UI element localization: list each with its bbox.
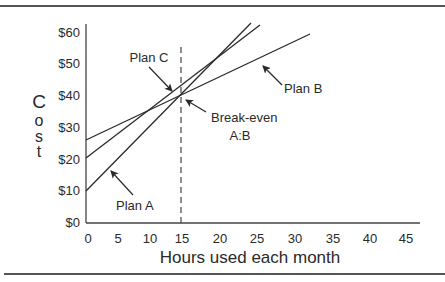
y-axis-title-letter: t [37, 143, 42, 160]
x-tick: 40 [363, 231, 377, 246]
x-tick: 10 [143, 231, 157, 246]
x-tick: 5 [114, 231, 121, 246]
x-tick: 35 [326, 231, 340, 246]
plan-b-arrow [263, 66, 282, 85]
plan-a-arrow [111, 171, 133, 195]
plan-a-label: Plan A [116, 198, 154, 213]
y-tick: $20 [58, 152, 80, 167]
x-tick: 15 [175, 231, 189, 246]
y-tick-labels: $60 $50 $40 $30 $20 $10 $0 [58, 25, 80, 230]
y-tick: $40 [58, 88, 80, 103]
y-tick: $60 [58, 25, 80, 40]
break-even-chart: $60 $50 $40 $30 $20 $10 $0 0 5 10 15 20 … [0, 0, 445, 282]
x-tick: 0 [84, 231, 91, 246]
plan-c-arrow [149, 67, 172, 91]
x-tick: 20 [213, 231, 227, 246]
y-tick: $10 [58, 183, 80, 198]
y-tick: $50 [58, 56, 80, 71]
y-axis-title-letter: C [32, 91, 46, 112]
plan-c-label: Plan C [129, 50, 168, 65]
breakeven-sublabel: A:B [230, 128, 251, 143]
breakeven-arrow [186, 100, 206, 112]
x-axis-title: Hours used each month [160, 248, 341, 267]
breakeven-label: Break-even [211, 110, 277, 125]
plan-a-line [86, 23, 251, 191]
x-tick: 25 [250, 231, 264, 246]
x-tick: 45 [399, 231, 413, 246]
y-axis-title-letter: o [35, 112, 44, 129]
y-tick: $0 [66, 215, 80, 230]
y-axis-title: C o s t [32, 91, 46, 160]
plan-b-label: Plan B [284, 81, 322, 96]
y-tick: $30 [58, 120, 80, 135]
x-tick: 30 [288, 231, 302, 246]
x-tick-labels: 0 5 10 15 20 25 30 35 40 45 [84, 231, 413, 246]
